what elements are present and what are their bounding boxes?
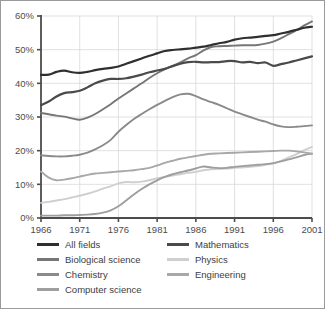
x-tick-label: 1971 [69, 224, 90, 233]
series-line-physics [41, 147, 312, 203]
x-tick-label: 2001 [301, 224, 322, 233]
legend-swatch-icon [37, 288, 59, 291]
legend-columns: All fieldsBiological scienceChemistryCom… [37, 237, 325, 297]
legend-swatch-icon [167, 273, 189, 276]
y-axis-tick-labels: 0%10%20%30%40%50%60% [15, 10, 35, 223]
x-tick-label: 1966 [30, 224, 51, 233]
x-tick-label: 1981 [147, 224, 168, 233]
legend-label: Computer science [65, 284, 142, 295]
legend-swatch-icon [167, 243, 189, 246]
legend-item[interactable]: Physics [167, 252, 317, 267]
legend-label: All fields [65, 239, 100, 250]
y-tick-label: 40% [15, 78, 35, 89]
legend-swatch-icon [37, 273, 59, 276]
legend-item[interactable]: Mathematics [167, 237, 317, 252]
legend-label: Mathematics [195, 239, 249, 250]
x-tick-label: 1986 [185, 224, 206, 233]
x-tick-label: 1976 [108, 224, 129, 233]
legend-item[interactable]: All fields [37, 237, 167, 252]
y-tick-label: 60% [15, 10, 35, 21]
y-tick-label: 50% [15, 44, 35, 55]
legend-swatch-icon [37, 258, 59, 261]
legend-item[interactable]: Biological science [37, 252, 167, 267]
legend-swatch-icon [37, 243, 59, 246]
series-line-all-fields [41, 27, 312, 75]
legend-column-left: All fieldsBiological scienceChemistryCom… [37, 237, 167, 297]
data-series-group [41, 21, 312, 215]
x-tick-label: 1991 [224, 224, 245, 233]
y-tick-label: 10% [15, 179, 35, 190]
legend-column-right: MathematicsPhysicsEngineering [167, 237, 317, 282]
series-line-chemistry [41, 94, 312, 157]
x-tick-label: 1996 [263, 224, 284, 233]
legend-label: Biological science [65, 254, 141, 265]
legend-item[interactable]: Chemistry [37, 267, 167, 282]
chart-legend: All fieldsBiological scienceChemistryCom… [1, 237, 325, 307]
chart-figure: 0%10%20%30%40%50%60% 1966197119761981198… [0, 0, 325, 309]
legend-item[interactable]: Engineering [167, 267, 317, 282]
y-tick-label: 0% [20, 212, 34, 223]
legend-swatch-icon [167, 258, 189, 261]
x-axis-tick-labels: 19661971197619811986199119962001 [30, 224, 322, 233]
y-tick-label: 20% [15, 145, 35, 156]
chart-plot-area: 0%10%20%30%40%50%60% 1966197119761981198… [1, 1, 325, 233]
legend-label: Chemistry [65, 269, 108, 280]
legend-label: Engineering [195, 269, 246, 280]
y-tick-label: 30% [15, 111, 35, 122]
grid-lines [41, 16, 312, 218]
legend-label: Physics [195, 254, 228, 265]
line-chart-svg: 0%10%20%30%40%50%60% 1966197119761981198… [1, 1, 325, 233]
legend-item[interactable]: Computer science [37, 282, 167, 297]
